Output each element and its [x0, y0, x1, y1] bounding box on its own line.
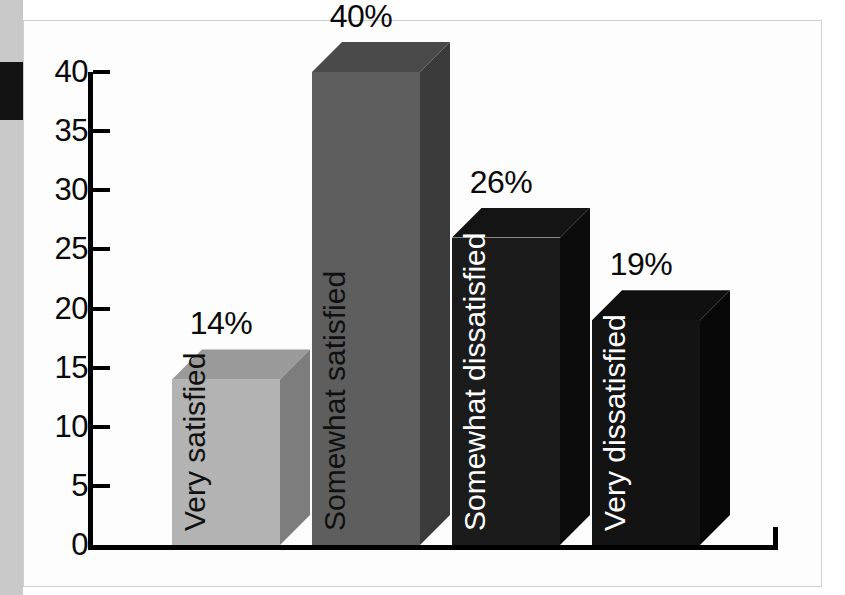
y-axis-tick-label: 15 — [36, 352, 88, 383]
x-axis-line — [88, 545, 778, 550]
bar-value-label: 19% — [587, 248, 695, 280]
bar-side-face — [700, 290, 730, 545]
tick-mark-icon — [93, 484, 110, 488]
plot-area: 0510152025303540 Very satisfied14%Somewh… — [0, 0, 845, 595]
y-axis-tick-label: 20 — [36, 293, 88, 324]
bar-side-face — [560, 208, 590, 545]
bar-category-label: Somewhat dissatisfied — [452, 501, 560, 531]
y-axis-tick-label: 5 — [36, 470, 88, 501]
tick-mark-icon — [93, 70, 110, 74]
y-axis-tick-label: 10 — [36, 411, 88, 442]
x-axis-end-tick — [773, 527, 778, 550]
bar-value-label: 40% — [307, 0, 415, 32]
y-axis-tick-label: 40 — [36, 56, 88, 87]
bar-2[interactable]: Somewhat satisfied — [312, 42, 450, 545]
bar-front-face: Very dissatisfied — [592, 320, 700, 545]
bar-side-face — [420, 42, 450, 545]
y-axis-tick-label: 30 — [36, 174, 88, 205]
bar-category-label: Very satisfied — [172, 501, 280, 531]
bar-4[interactable]: Very dissatisfied — [592, 290, 730, 545]
bar-front-face: Very satisfied — [172, 379, 280, 545]
bar-category-label: Very dissatisfied — [592, 501, 700, 531]
tick-mark-icon — [93, 129, 110, 133]
tick-mark-icon — [93, 366, 110, 370]
y-axis-tick-label: 35 — [36, 115, 88, 146]
tick-mark-icon — [93, 425, 110, 429]
tick-mark-icon — [93, 307, 110, 311]
tick-mark-icon — [93, 188, 110, 192]
chart-figure: 0510152025303540 Very satisfied14%Somewh… — [0, 0, 845, 595]
bar-category-label: Somewhat satisfied — [312, 501, 420, 531]
bar-value-label: 26% — [447, 166, 555, 198]
y-axis-tick-label: 0 — [36, 529, 88, 560]
bar-front-face: Somewhat satisfied — [312, 72, 420, 545]
y-axis-tick-label: 25 — [36, 233, 88, 264]
bar-side-face — [280, 349, 310, 545]
bar-3[interactable]: Somewhat dissatisfied — [452, 208, 590, 545]
bar-1[interactable]: Very satisfied — [172, 349, 310, 545]
tick-mark-icon — [93, 247, 110, 251]
y-axis-line — [88, 72, 93, 550]
bar-front-face: Somewhat dissatisfied — [452, 238, 560, 545]
bar-value-label: 14% — [167, 307, 275, 339]
